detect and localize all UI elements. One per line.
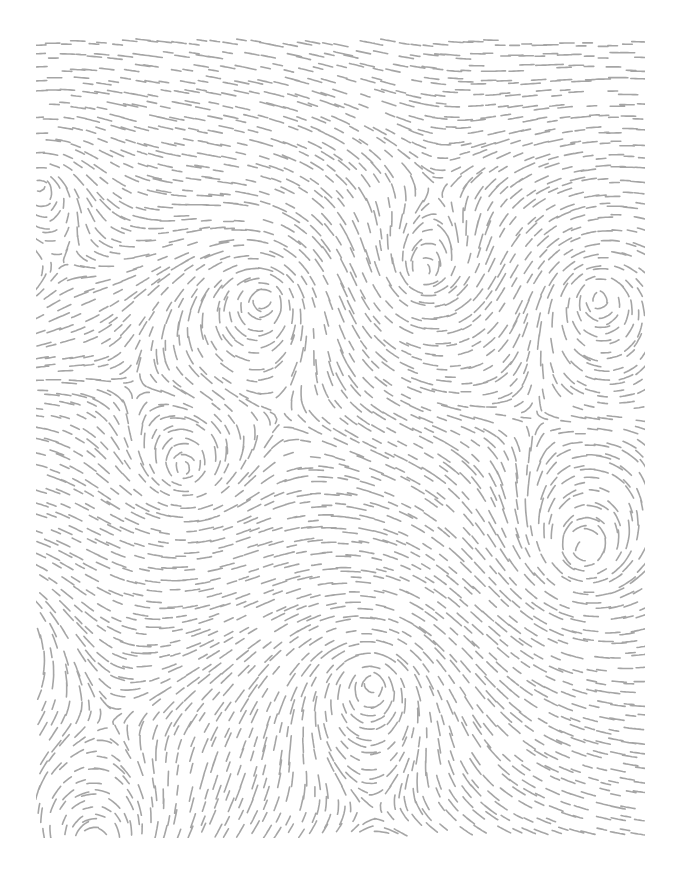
flow-dashes [31,39,651,841]
artwork-page [0,0,673,876]
flow-field-pattern [0,0,673,876]
